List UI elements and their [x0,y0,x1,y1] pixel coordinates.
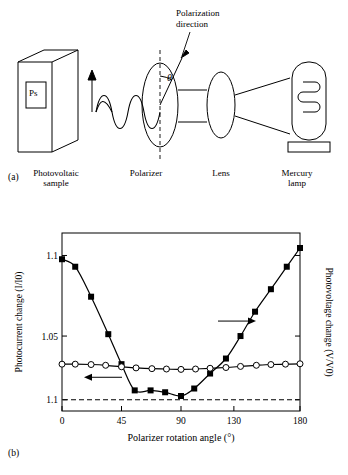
data-point-square [223,356,229,362]
data-point-circle [207,365,213,371]
data-point-square [297,245,303,251]
data-point-circle [238,363,244,369]
data-point-circle [223,365,229,371]
data-point-square [132,387,138,393]
polarization-direction-pointer-icon [181,32,190,58]
y-axis-title-right: Photovoltage change (V/V0) [323,267,334,376]
data-point-circle [133,365,139,371]
data-point-square [148,387,154,393]
photovoltaic-sample-caption: Photovoltaicsample [10,168,102,189]
y-axis-title-left: Photocurrent change (I/I0) [14,272,25,373]
theta-label: θ [167,72,172,83]
y-tick-label-left: 1.1 [46,395,58,405]
data-point-circle [282,361,288,367]
data-point-circle [119,364,125,370]
y-tick-label-left: 1.05 [41,332,58,342]
photovoltaic-sample-icon [18,50,78,152]
panel-a-label: (a) [8,172,19,182]
data-point-circle [72,361,78,367]
data-point-circle [297,361,303,367]
sample-ps-label: Ps [29,88,38,98]
left-axis-arrow-icon [84,374,122,381]
lens-caption: Lens [196,168,246,178]
data-point-square [162,389,168,395]
data-point-circle [59,361,65,367]
mercury-lamp-icon [288,62,330,152]
x-tick-label: 90 [176,416,186,426]
data-point-circle [163,366,169,372]
plot-frame [62,233,300,411]
data-point-circle [103,362,109,368]
data-point-square [252,309,258,315]
panel-a-diagram: Polarizationdirection Photovoltaicsample… [0,0,348,215]
data-point-square [72,264,78,270]
y-tick-label-left: 1.1 [46,251,58,261]
optical-rays [178,78,290,134]
data-point-circle [149,366,155,372]
data-point-circle [268,362,274,368]
mercury-lamp-caption: Mercurylamp [262,168,332,189]
data-point-square [238,333,244,339]
series-curve [62,248,300,396]
data-point-square [105,331,111,337]
data-point-square [178,393,184,399]
data-point-square [59,256,65,262]
light-wave-icon [96,96,160,129]
beam-arrow-into-sample-icon [88,70,96,112]
x-tick-label: 130 [227,416,242,426]
lens-icon [207,72,235,138]
chart-svg: 045901301801.11.051.1Polarizer rotation … [0,215,348,475]
polarizer-caption: Polarizer [108,168,184,178]
x-tick-label: 0 [60,416,65,426]
polarization-direction-label: Polarizationdirection [176,8,220,30]
data-point-square [191,386,197,392]
data-point-circle [178,366,184,372]
data-point-circle [193,366,199,372]
data-point-circle [88,362,94,368]
panel-b-chart: 045901301801.11.051.1Polarizer rotation … [0,215,348,475]
x-tick-label: 180 [293,416,308,426]
data-point-square [88,294,94,300]
x-tick-label: 45 [117,416,127,426]
data-point-square [268,286,274,292]
x-axis-title: Polarizer rotation angle (°) [127,432,234,444]
right-axis-arrow-icon [218,318,256,325]
data-point-circle [253,362,259,368]
panel-b-label: (b) [8,448,19,458]
data-point-square [284,264,290,270]
figure-container: Polarizationdirection Photovoltaicsample… [0,0,348,475]
